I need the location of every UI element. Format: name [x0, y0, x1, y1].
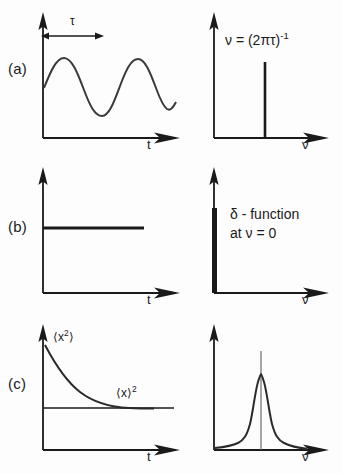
plot-c-right: ν	[205, 322, 340, 462]
frequency-formula-exponent: -1	[280, 30, 288, 41]
panel-label-a: (a)	[8, 60, 27, 77]
x-axis-label-a-right: ν	[302, 137, 309, 152]
frequency-formula-base: ν = (2πτ)	[225, 32, 280, 48]
square-of-mean-label: ⟨x⟩2	[116, 384, 137, 400]
exponential-decay-curve	[45, 345, 154, 409]
plot-b-right: δ - function at ν = 0 ν	[205, 165, 340, 305]
sine-curve	[44, 58, 176, 116]
frequency-formula: ν = (2πτ)-1	[225, 30, 289, 50]
plot-a-right: ν = (2πτ)-1 ν	[205, 10, 340, 150]
mean-square-label-open: ⟨x	[53, 330, 64, 344]
x-axis-label-b-left: t	[147, 292, 151, 307]
y-axis-c-right	[209, 324, 218, 450]
x-axis-a-left	[43, 133, 180, 144]
delta-function-line2: at ν = 0	[230, 224, 299, 243]
x-axis-label-a-left: t	[147, 137, 151, 152]
x-axis-a-right	[214, 133, 329, 144]
y-axis-c-left	[38, 324, 47, 450]
mean-square-label: ⟨x2⟩	[53, 328, 74, 344]
plot-c-left: ⟨x2⟩ ⟨x⟩2 t	[34, 322, 184, 462]
delta-function-line1: δ - function	[230, 205, 299, 224]
tau-span-arrow	[41, 33, 104, 40]
mean-square-label-close: ⟩	[69, 330, 74, 344]
fourier-transform-pairs-figure: (a) τ t	[0, 0, 342, 474]
plot-a-left: τ t	[34, 10, 184, 150]
y-axis-a-left	[38, 12, 47, 138]
x-axis-label-c-left: t	[147, 449, 151, 464]
x-axis-label-b-right: ν	[302, 292, 309, 307]
tau-annotation: τ	[70, 14, 75, 28]
panel-label-c: (c)	[8, 375, 26, 392]
delta-function-annotation: δ - function at ν = 0	[230, 205, 299, 243]
x-axis-label-c-right: ν	[302, 449, 309, 464]
x-axis-c-left	[43, 445, 180, 456]
panel-label-b: (b)	[8, 218, 27, 235]
y-axis-a-right	[209, 12, 218, 138]
square-of-mean-label-base: ⟨x⟩	[116, 386, 132, 400]
plot-b-left: t	[34, 165, 184, 305]
square-of-mean-label-exponent: 2	[132, 384, 137, 394]
x-axis-b-left	[43, 288, 180, 299]
x-axis-b-right	[214, 288, 329, 299]
y-axis-b-left	[38, 167, 47, 293]
